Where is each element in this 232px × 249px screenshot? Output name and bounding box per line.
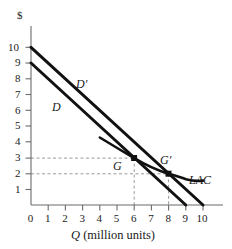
- y-tick-label-8: 8: [15, 73, 21, 84]
- x-tick-label-9: 9: [183, 213, 189, 224]
- y-tick-label-4: 4: [15, 136, 21, 147]
- x-tick-label-2: 2: [62, 213, 68, 224]
- point-label-g: G: [113, 160, 122, 172]
- x-tick-label-6: 6: [131, 213, 137, 224]
- x-tick-label-7: 7: [148, 213, 154, 224]
- y-tick-label-10: 10: [8, 42, 19, 53]
- x-tick-label-10: 10: [197, 213, 208, 224]
- curve-label-d: D: [52, 101, 61, 113]
- y-tick-label-6: 6: [15, 105, 21, 116]
- x-tick-label-1: 1: [45, 213, 51, 224]
- y-tick-label-1: 1: [15, 184, 21, 195]
- point-label-g-prime: G′: [160, 154, 171, 166]
- y-axis-unit-label: $: [17, 10, 23, 21]
- x-tick-label-4: 4: [97, 213, 103, 224]
- y-tick-label-5: 5: [15, 120, 21, 131]
- x-tick-label-5: 5: [114, 213, 120, 224]
- x-axis-title-rest: (million units): [83, 228, 155, 242]
- y-tick-label-9: 9: [15, 57, 21, 68]
- y-tick-label-3: 3: [15, 152, 21, 163]
- x-axis-title: Q (million units): [71, 229, 155, 242]
- curve-label-d-prime: D′: [76, 78, 87, 90]
- y-tick-label-7: 7: [15, 89, 21, 100]
- x-axis-title-symbol: Q: [71, 228, 80, 242]
- x-tick-label-3: 3: [79, 213, 85, 224]
- x-tick-label-0: 0: [28, 213, 34, 224]
- x-tick-label-8: 8: [165, 213, 171, 224]
- y-tick-label-2: 2: [15, 168, 21, 179]
- curve-label-lac: LAC: [189, 174, 211, 186]
- marker-point-g: [131, 155, 137, 161]
- marker-point-g-prime: [166, 171, 172, 177]
